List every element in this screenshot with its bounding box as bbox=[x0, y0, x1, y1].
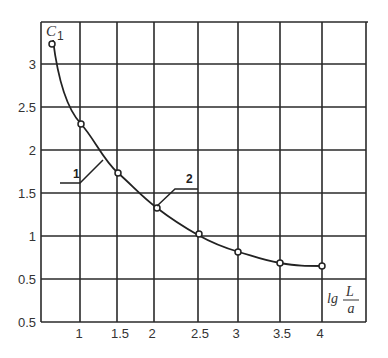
x-tick: 2.5 bbox=[191, 326, 209, 341]
data-curve bbox=[53, 40, 322, 266]
y-tick: 0.5 bbox=[18, 272, 36, 287]
x-label-prefix: lg bbox=[327, 291, 338, 306]
callout-1: 1 bbox=[60, 160, 103, 183]
y-axis-label: C 1 bbox=[46, 23, 64, 43]
x-axis-label: lg L a bbox=[327, 284, 359, 316]
x-tick: 4 bbox=[316, 326, 323, 341]
callout-2: 2 bbox=[157, 172, 198, 206]
chart: 3 2.5 2 1.5 1 0.5 0.5 1 1.5 2 2.5 3 3.5 … bbox=[0, 0, 388, 358]
x-axis-ticks: 1 1.5 2 2.5 3 3.5 4 bbox=[75, 326, 323, 341]
data-point bbox=[49, 41, 55, 47]
y-tick: 1.5 bbox=[18, 186, 36, 201]
x-tick: 2 bbox=[148, 326, 155, 341]
data-point bbox=[235, 249, 241, 255]
x-tick: 3.5 bbox=[273, 326, 291, 341]
x-label-numerator: L bbox=[345, 284, 354, 299]
x-label-denominator: a bbox=[348, 301, 355, 316]
y-tick: 2 bbox=[29, 143, 36, 158]
data-point bbox=[277, 260, 283, 266]
callout-2-leader bbox=[157, 189, 198, 206]
y-axis-ticks: 3 2.5 2 1.5 1 0.5 0.5 bbox=[18, 57, 36, 330]
y-tick: 2.5 bbox=[18, 100, 36, 115]
y-label-main: C bbox=[46, 23, 57, 39]
data-point bbox=[78, 121, 84, 127]
data-point bbox=[115, 170, 121, 176]
y-tick: 3 bbox=[29, 57, 36, 72]
data-points bbox=[49, 41, 325, 269]
data-point bbox=[196, 231, 202, 237]
x-tick: 1.5 bbox=[111, 326, 129, 341]
callout-1-label: 1 bbox=[73, 167, 80, 181]
y-tick: 1 bbox=[29, 229, 36, 244]
y-label-sub: 1 bbox=[57, 29, 64, 43]
x-tick: 3 bbox=[232, 326, 239, 341]
x-tick: 1 bbox=[75, 326, 82, 341]
callout-2-label: 2 bbox=[186, 172, 193, 186]
y-tick: 0.5 bbox=[18, 315, 36, 330]
callout-1-leader bbox=[60, 160, 103, 183]
data-point bbox=[319, 263, 325, 269]
